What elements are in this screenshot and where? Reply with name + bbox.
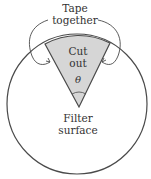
- cut-label-line1: Cut: [68, 45, 88, 57]
- cut-label-line2: out: [69, 57, 87, 69]
- filter-diagram: Tape together Cut out θ Filter surface: [0, 0, 151, 179]
- angle-label: θ: [75, 74, 81, 85]
- arrowhead-left-icon: [46, 58, 50, 62]
- tape-arrow-left: [29, 20, 50, 64]
- filter-label-line1: Filter: [63, 112, 93, 124]
- tape-label-line2: together: [52, 14, 99, 26]
- filter-label-line2: surface: [58, 124, 97, 136]
- tape-label-line1: Tape: [62, 2, 87, 14]
